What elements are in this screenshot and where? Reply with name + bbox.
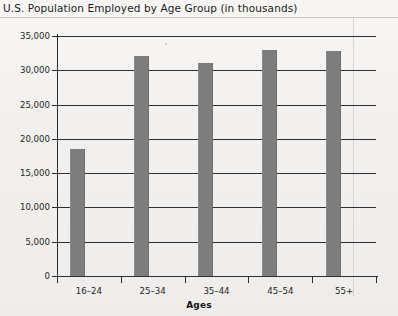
x-axis-tick-mark [312, 277, 313, 283]
y-axis-tick-label: 25,000 [0, 100, 50, 110]
scan-speckle [165, 43, 167, 45]
gridline [57, 276, 376, 277]
chart-title: U.S. Population Employed by Age Group (i… [3, 2, 297, 14]
x-axis-tick-label: 35–44 [185, 286, 249, 296]
x-axis-tick-label: 55+ [312, 286, 376, 296]
x-axis-tick-mark [57, 277, 58, 283]
y-axis-tick-label: 0 [0, 271, 50, 281]
x-axis-tick-mark [185, 277, 186, 283]
y-axis-tick-label: 15,000 [0, 168, 50, 178]
plot-area [57, 36, 376, 276]
gridline [57, 36, 376, 37]
y-axis-tick-mark [52, 105, 58, 106]
x-axis-title: Ages [0, 300, 398, 310]
y-axis-tick-mark [52, 36, 58, 37]
figure-top-rule [0, 17, 398, 18]
y-axis-tick-mark [52, 139, 58, 140]
x-axis-tick-mark [121, 277, 122, 283]
bar[interactable] [70, 149, 85, 276]
bar[interactable] [262, 50, 277, 276]
x-axis-tick-label: 45–54 [248, 286, 312, 296]
y-axis-tick-label: 30,000 [0, 65, 50, 75]
y-axis-tick-label: 10,000 [0, 202, 50, 212]
bar[interactable] [326, 51, 341, 276]
bar[interactable] [198, 63, 213, 276]
bar[interactable] [134, 56, 149, 276]
y-axis-tick-label: 20,000 [0, 134, 50, 144]
y-axis-tick-mark [52, 242, 58, 243]
y-axis-tick-mark [52, 173, 58, 174]
x-axis-tick-label: 25–34 [121, 286, 185, 296]
y-axis-tick-label: 35,000 [0, 31, 50, 41]
x-axis-tick-label: 16–24 [57, 286, 121, 296]
y-axis-tick-label: 5,000 [0, 237, 50, 247]
y-axis-tick-mark [52, 207, 58, 208]
chart-page: U.S. Population Employed by Age Group (i… [0, 0, 398, 316]
x-axis-tick-mark [248, 277, 249, 283]
y-axis-tick-mark [52, 70, 58, 71]
x-axis-tick-mark [376, 277, 377, 283]
